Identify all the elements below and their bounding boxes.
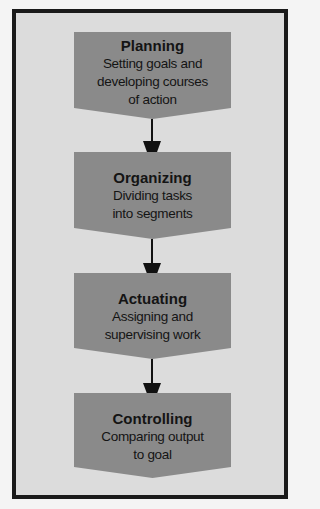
step-organizing: Organizing Dividing tasks into segments [74,152,231,239]
step-description: Assigning and supervising work [74,308,231,344]
step-controlling: Controlling Comparing output to goal [74,393,231,480]
step-planning: Planning Setting goals and developing co… [74,32,231,119]
step-title: Planning [74,37,231,55]
step-title: Actuating [74,290,231,308]
step-title: Controlling [74,410,231,428]
step-actuating: Actuating Assigning and supervising work [74,273,231,360]
step-title: Organizing [74,169,231,187]
step-description: Dividing tasks into segments [74,187,231,223]
step-description: Comparing output to goal [74,428,231,464]
step-description: Setting goals and developing courses of … [74,55,231,109]
